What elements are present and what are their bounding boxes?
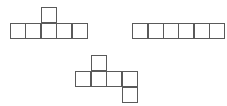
- net-square: [25, 23, 41, 39]
- net-square: [72, 23, 88, 39]
- net-square: [122, 71, 138, 87]
- net-square: [91, 71, 107, 87]
- net-square: [75, 71, 91, 87]
- net-square: [91, 55, 107, 71]
- net-square: [10, 23, 26, 39]
- net-square: [56, 23, 72, 39]
- net-square: [209, 23, 225, 39]
- net-square: [148, 23, 164, 39]
- net-square: [163, 23, 179, 39]
- diagram-canvas: [0, 0, 227, 106]
- net-square: [41, 7, 57, 23]
- net-square: [122, 87, 138, 103]
- net-square: [41, 23, 57, 39]
- net-square: [178, 23, 194, 39]
- net-square: [132, 23, 148, 39]
- net-square: [194, 23, 210, 39]
- net-square: [106, 71, 122, 87]
